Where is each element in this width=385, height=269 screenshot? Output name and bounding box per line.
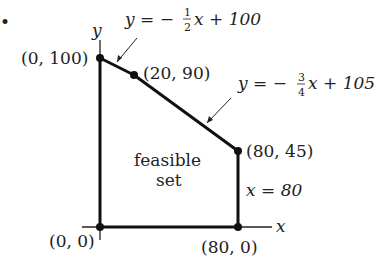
x-axis-label: x — [276, 216, 286, 236]
feasible-region-boundary — [100, 58, 238, 227]
vertex-0-100 — [96, 54, 104, 62]
constraint-1-rhs: x + 100 — [194, 9, 261, 29]
vertex-label: (20, 90) — [143, 63, 210, 83]
constraint-2-den: 4 — [298, 86, 305, 99]
vertex-label: (80, 0) — [201, 237, 258, 257]
bullet-marker: • — [0, 12, 10, 32]
y-axis-label: y — [91, 20, 102, 40]
vertex-label: (80, 45) — [246, 141, 313, 161]
constraint-1-num: 1 — [184, 6, 191, 19]
feasible-set-diagram: • y x (0, 100) (20, 90) (80, 45) (80, 0)… — [0, 0, 385, 269]
constraint-2-num: 3 — [298, 71, 305, 84]
region-label-line2: set — [156, 170, 182, 190]
vertex-0-0 — [96, 223, 104, 231]
constraint-3-label: x = 80 — [246, 180, 302, 200]
vertex-label: (0, 100) — [21, 48, 88, 68]
constraint-1-den: 2 — [184, 21, 191, 34]
vertex-label: (0, 0) — [49, 231, 95, 251]
vertex-80-0 — [234, 223, 242, 231]
arrow-head-icon — [117, 55, 122, 62]
vertex-20-90 — [130, 71, 138, 79]
constraint-2-rhs: x + 105 — [308, 73, 375, 93]
constraint-2-lhs: y = − — [237, 73, 287, 93]
vertex-80-45 — [234, 147, 242, 155]
constraint-1-lhs: y = − — [124, 9, 174, 29]
region-label-line1: feasible — [134, 150, 201, 170]
